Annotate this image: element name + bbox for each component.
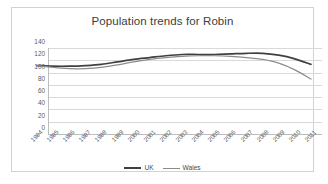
y-axis-tick-label: 0 [41, 124, 45, 131]
y-axis-line [48, 48, 49, 134]
gridline [48, 60, 322, 61]
gridline [48, 109, 322, 110]
legend-label: Wales [183, 165, 201, 172]
plot-area [48, 48, 322, 134]
legend-entry-wales[interactable]: Wales [163, 165, 201, 172]
y-axis-labels: 020406080100120140 [12, 8, 45, 184]
y-axis-tick-label: 80 [38, 74, 45, 81]
chart-title: Population trends for Robin [12, 15, 313, 27]
y-axis-tick-label: 60 [38, 87, 45, 94]
legend-entry-uk[interactable]: UK [124, 165, 153, 172]
gridline [48, 48, 322, 49]
y-axis-tick-label: 20 [38, 111, 45, 118]
gridline [48, 85, 322, 86]
legend-swatch-icon [163, 168, 180, 169]
y-axis-tick-label: 100 [34, 62, 45, 69]
legend-swatch-icon [124, 167, 141, 169]
chart-legend: UKWales [12, 165, 313, 172]
gridline [48, 73, 322, 74]
gridline [48, 122, 322, 123]
y-axis-tick-label: 120 [34, 50, 45, 57]
chart-frame: Population trends for Robin 020406080100… [11, 7, 314, 172]
gridline [48, 97, 322, 98]
legend-label: UK [144, 165, 153, 172]
y-axis-tick-label: 40 [38, 99, 45, 106]
y-axis-tick-label: 140 [34, 38, 45, 45]
